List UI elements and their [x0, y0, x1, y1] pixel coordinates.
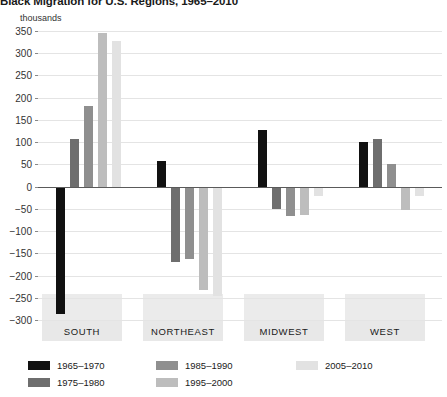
- legend-item[interactable]: 1975–1980: [28, 377, 105, 388]
- legend-swatch: [296, 361, 318, 370]
- bar: [70, 139, 79, 187]
- gridline: −100: [38, 231, 442, 232]
- y-axis-tick-label: −200: [9, 270, 32, 281]
- y-axis-tick-label: −250: [9, 292, 32, 303]
- gridline: −50: [38, 209, 442, 210]
- y-axis-tick-label: −50: [15, 203, 32, 214]
- region-label-northeast: NORTHEAST: [143, 321, 224, 341]
- chart-legend: 1965–19701975–19801985–19901995–20002005…: [28, 360, 438, 394]
- bar: [314, 187, 323, 197]
- y-axis-tick-label: 150: [15, 114, 32, 125]
- y-axis-tick-mark: [35, 53, 38, 54]
- legend-label: 1995–2000: [185, 377, 233, 388]
- bar: [199, 187, 208, 290]
- region-label-text: NORTHEAST: [151, 326, 215, 337]
- bar: [185, 187, 194, 259]
- y-axis-tick-mark: [35, 120, 38, 121]
- bar: [112, 41, 121, 186]
- y-axis-tick-mark: [35, 209, 38, 210]
- y-axis-tick-mark: [35, 276, 38, 277]
- bar: [272, 187, 281, 209]
- bar: [56, 187, 65, 315]
- y-axis-tick-label: −150: [9, 248, 32, 259]
- region-label-text: MIDWEST: [259, 326, 308, 337]
- y-axis-tick-label: 50: [21, 159, 32, 170]
- y-axis-unit-label: thousands: [20, 13, 62, 23]
- legend-item[interactable]: 1995–2000: [156, 377, 233, 388]
- y-axis-tick-mark: [35, 164, 38, 165]
- plot-area: 350300250200150100500−50−100−150−200−250…: [38, 31, 442, 320]
- chart-root: Black Migration for U.S. Regions, 1965–2…: [0, 0, 447, 397]
- legend-swatch: [28, 361, 50, 370]
- y-axis-tick-label: 250: [15, 70, 32, 81]
- bar: [171, 187, 180, 263]
- bar: [84, 106, 93, 187]
- chart-title: Black Migration for U.S. Regions, 1965–2…: [0, 0, 447, 7]
- region-label-text: SOUTH: [64, 326, 100, 337]
- bar: [359, 142, 368, 187]
- region-label-midwest: MIDWEST: [244, 321, 325, 341]
- gridline: 350: [38, 31, 442, 32]
- y-axis-tick-label: 300: [15, 48, 32, 59]
- bar: [286, 187, 295, 216]
- legend-item[interactable]: 2005–2010: [296, 360, 373, 371]
- bar: [373, 139, 382, 187]
- region-label-west: WEST: [345, 321, 426, 341]
- legend-item[interactable]: 1985–1990: [156, 360, 233, 371]
- bar: [300, 187, 309, 215]
- y-axis-tick-label: −300: [9, 315, 32, 326]
- region-label-south: SOUTH: [42, 321, 123, 341]
- y-axis-tick-mark: [35, 253, 38, 254]
- y-axis-tick-label: 100: [15, 137, 32, 148]
- y-axis-tick-mark: [35, 298, 38, 299]
- y-axis-tick-mark: [35, 187, 38, 188]
- bar: [258, 130, 267, 186]
- y-axis-tick-mark: [35, 231, 38, 232]
- gridline: −150: [38, 253, 442, 254]
- legend-label: 1965–1970: [57, 360, 105, 371]
- legend-label: 2005–2010: [325, 360, 373, 371]
- legend-label: 1975–1980: [57, 377, 105, 388]
- y-axis-tick-mark: [35, 31, 38, 32]
- bar: [98, 33, 107, 186]
- legend-item[interactable]: 1965–1970: [28, 360, 105, 371]
- bar: [401, 187, 410, 210]
- y-axis-tick-mark: [35, 75, 38, 76]
- y-axis-tick-label: −100: [9, 226, 32, 237]
- zero-axis-line: 0: [38, 187, 442, 188]
- bar: [213, 187, 222, 296]
- legend-label: 1985–1990: [185, 360, 233, 371]
- gridline: −200: [38, 276, 442, 277]
- bar: [415, 187, 424, 197]
- region-label-strip: SOUTHNORTHEASTMIDWESTWEST: [38, 321, 442, 341]
- y-axis-tick-mark: [35, 98, 38, 99]
- region-label-text: WEST: [370, 326, 400, 337]
- gridline: −250: [38, 298, 442, 299]
- bar: [157, 161, 166, 187]
- y-axis-tick-mark: [35, 142, 38, 143]
- y-axis-tick-label: 200: [15, 92, 32, 103]
- legend-swatch: [28, 378, 50, 387]
- bar: [387, 164, 396, 186]
- y-axis-tick-label: 350: [15, 26, 32, 37]
- legend-swatch: [156, 361, 178, 370]
- legend-swatch: [156, 378, 178, 387]
- y-axis-tick-label: 0: [26, 181, 32, 192]
